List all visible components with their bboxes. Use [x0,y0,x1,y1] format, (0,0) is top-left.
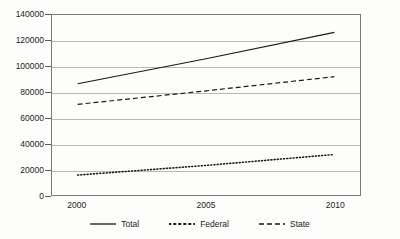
y-axis-tick-label: 60000 [0,114,44,123]
legend-item-total[interactable]: Total [90,220,139,229]
x-axis-tick-label: 2010 [326,201,345,210]
legend-item-state[interactable]: State [259,220,310,229]
series-line-federal [78,155,335,176]
y-axis-tick-label: 100000 [0,62,44,71]
line-chart: 020000400006000080000100000120000140000 … [0,0,400,239]
chart-legend: TotalFederalState [0,216,400,232]
x-axis-tick-label: 2000 [67,201,86,210]
legend-swatch-dotted-icon [169,220,195,228]
series-layer [52,15,360,195]
y-axis-tick-label: 80000 [0,88,44,97]
y-axis-tick-label: 0 [0,192,44,201]
legend-item-federal[interactable]: Federal [169,220,229,229]
series-line-total [78,32,335,83]
y-axis-tick-label: 20000 [0,166,44,175]
y-axis-tick-mark [45,196,51,197]
legend-label: Federal [200,220,229,229]
y-axis: 020000400006000080000100000120000140000 [0,0,44,239]
series-line-state [78,77,335,105]
legend-swatch-dashed-icon [259,220,285,228]
legend-swatch-solid-icon [90,220,116,228]
y-axis-tick-label: 40000 [0,140,44,149]
legend-label: State [290,220,310,229]
legend-label: Total [121,220,139,229]
plot-area [51,14,361,196]
x-axis-tick-label: 2005 [197,201,216,210]
y-axis-tick-label: 120000 [0,36,44,45]
y-axis-tick-label: 140000 [0,10,44,19]
